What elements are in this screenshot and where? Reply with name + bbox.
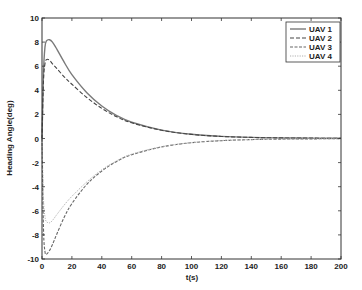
x-tick-label: 200 [334, 262, 348, 271]
x-axis-label: t(s) [186, 273, 199, 282]
y-tick-label: 10 [30, 14, 39, 23]
line-chart: 020406080100120140160180200-10-8-6-4-202… [0, 0, 362, 290]
legend: UAV 1UAV 2UAV 3UAV 4 [286, 22, 340, 62]
y-tick-label: 8 [35, 38, 40, 47]
legend-label-uav-2: UAV 2 [309, 34, 333, 43]
x-tick-label: 100 [185, 262, 199, 271]
legend-label-uav-3: UAV 3 [309, 43, 333, 52]
x-tick-label: 40 [97, 262, 106, 271]
y-tick-label: 2 [35, 110, 40, 119]
x-tick-label: 160 [275, 262, 289, 271]
y-tick-label: 0 [35, 135, 40, 144]
y-tick-label: -10 [27, 255, 39, 264]
x-tick-label: 80 [157, 262, 166, 271]
x-tick-label: 120 [215, 262, 229, 271]
legend-label-uav-1: UAV 1 [309, 25, 333, 34]
x-tick-label: 0 [40, 262, 45, 271]
y-tick-label: 6 [35, 62, 40, 71]
y-tick-label: 4 [35, 86, 40, 95]
x-tick-label: 60 [127, 262, 136, 271]
legend-label-uav-4: UAV 4 [309, 52, 333, 61]
y-axis-label: Heading Angle(deg) [5, 100, 14, 176]
x-tick-label: 180 [304, 262, 318, 271]
y-tick-label: -4 [32, 183, 40, 192]
x-tick-label: 140 [245, 262, 259, 271]
y-tick-label: -8 [32, 231, 40, 240]
y-tick-label: -2 [32, 159, 40, 168]
x-tick-label: 20 [67, 262, 76, 271]
y-tick-label: -6 [32, 207, 40, 216]
